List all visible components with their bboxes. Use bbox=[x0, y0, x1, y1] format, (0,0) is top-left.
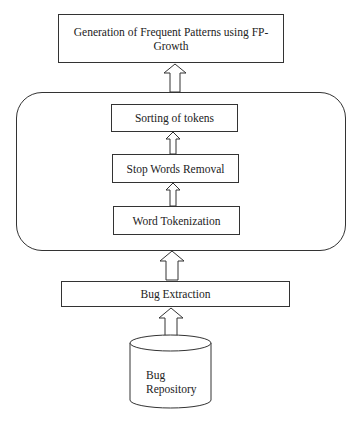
arrow-up-icon bbox=[160, 251, 184, 280]
arrow-up-icon bbox=[164, 64, 186, 92]
bug-repository-label: Bug Repository bbox=[146, 368, 196, 396]
bug-repository-line1: Bug bbox=[146, 368, 196, 382]
diagram-connectors bbox=[0, 0, 355, 424]
arrow-up-icon bbox=[159, 308, 183, 336]
arrow-up-icon bbox=[166, 183, 180, 206]
bug-repository-line2: Repository bbox=[146, 382, 196, 396]
arrow-up-icon bbox=[166, 132, 180, 154]
